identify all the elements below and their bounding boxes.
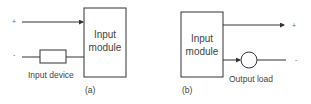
caption-b: (b)	[182, 85, 193, 95]
minus-terminal-b: -	[295, 56, 298, 63]
plus-terminal-a: +	[12, 18, 16, 25]
output-load-circle	[241, 52, 257, 68]
module-label-a-line2: module	[89, 42, 122, 53]
plus-terminal-b: +	[292, 22, 296, 29]
input-device-label: Input device	[28, 70, 74, 80]
output-load-label: Output load	[229, 74, 273, 84]
diagram-a: + Input module - Input device (a)	[12, 8, 126, 95]
input-module-box-b	[181, 12, 223, 77]
caption-a: (a)	[85, 85, 96, 95]
diagram-b: Input module + - Output load (b)	[181, 12, 298, 95]
module-label-a-line1: Input	[94, 29, 116, 40]
module-label-b-line2: module	[186, 46, 219, 57]
minus-terminal-a: -	[13, 51, 16, 58]
input-module-diagrams: + Input module - Input device (a) Input …	[0, 0, 311, 104]
module-label-b-line1: Input	[191, 33, 213, 44]
input-device-resistor	[40, 50, 66, 63]
